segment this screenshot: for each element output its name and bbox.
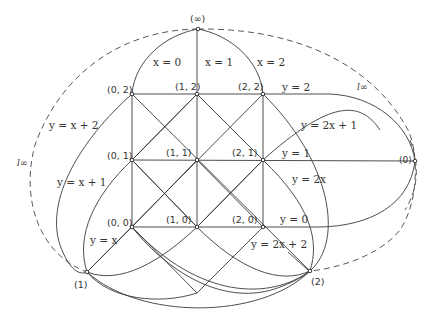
label-point-0-1: (0, 1) <box>107 150 133 161</box>
label-point-infinity: (∞) <box>190 13 205 24</box>
label-x2: x = 2 <box>257 56 285 68</box>
line-y1 <box>132 160 415 161</box>
point-at-infinity-0 <box>413 159 417 163</box>
label-point-1-1: (1, 1) <box>166 147 192 158</box>
point-1-0 <box>195 225 199 229</box>
projective-plane-diagram: (0, 2) (1, 2) (2, 2) (0, 1) (1, 1) (2, 1… <box>0 0 427 323</box>
label-y-x-plus-1: y = x + 1 <box>56 176 106 188</box>
point-1-2 <box>195 92 199 96</box>
point-at-infinity-2 <box>308 269 312 273</box>
label-y-2x: y = 2x <box>291 173 326 185</box>
label-point-2-2: (2, 2) <box>238 81 264 92</box>
label-y-2x-plus-1: y = 2x + 1 <box>300 119 357 131</box>
label-point-at-infinity-2: (2) <box>311 276 324 287</box>
label-y1: y = 1 <box>281 147 310 159</box>
label-x1: x = 1 <box>205 56 233 68</box>
label-x0: x = 0 <box>153 56 181 68</box>
label-point-at-infinity-1: (1) <box>74 279 87 290</box>
label-y0: y = 0 <box>279 213 308 225</box>
point-1-1 <box>195 158 199 162</box>
point-2-0 <box>261 225 265 229</box>
point-2-2 <box>261 92 265 96</box>
line-y-2x-bottom <box>132 227 310 293</box>
label-y-2x-plus-2: y = 2x + 2 <box>250 238 307 250</box>
label-point-0-2: (0, 2) <box>107 84 133 95</box>
label-point-1-0: (1, 0) <box>166 214 192 225</box>
label-y-x-plus-2: y = x + 2 <box>48 119 98 131</box>
label-l-infinity-right: l∞ <box>357 82 367 92</box>
label-y-x: y = x <box>89 234 117 246</box>
label-point-2-1: (2, 1) <box>232 147 258 158</box>
point-2-1 <box>261 158 265 162</box>
line-y-x2-right <box>263 110 380 160</box>
point-at-infinity-1 <box>85 270 89 274</box>
label-point-at-infinity-0: (0) <box>399 155 412 165</box>
label-y2: y = 2 <box>281 81 310 93</box>
label-point-2-0: (2, 0) <box>232 214 258 225</box>
line-y-2x1-lower <box>197 227 310 276</box>
point-infinity <box>196 27 200 31</box>
label-point-1-2: (1, 2) <box>175 81 201 92</box>
label-l-infinity-left: l∞ <box>17 158 27 168</box>
line-at-infinity-right-inner <box>405 140 416 210</box>
leader-y-2x-plus-2 <box>288 252 308 270</box>
label-point-0-0: (0, 0) <box>107 217 133 228</box>
